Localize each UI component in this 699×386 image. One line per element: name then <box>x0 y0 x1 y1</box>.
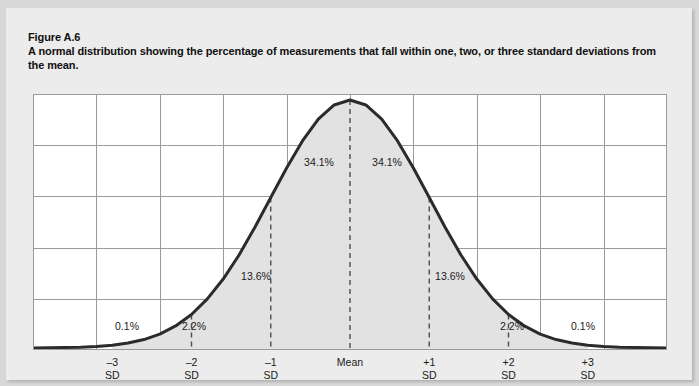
x-tick-value: –1 <box>265 356 277 368</box>
x-tick-value: –3 <box>106 356 118 368</box>
percentage-label: 2.2% <box>500 320 524 332</box>
x-tick-unit: SD <box>501 369 516 382</box>
percentage-label: 34.1% <box>372 156 402 168</box>
x-tick-unit: SD <box>184 369 199 382</box>
percentage-label: 0.1% <box>115 320 139 332</box>
normal-distribution-chart <box>33 94 667 350</box>
x-tick-3: –3SD <box>105 356 120 382</box>
percentage-label: 13.6% <box>241 270 271 282</box>
x-tick-2: –2SD <box>184 356 199 382</box>
x-tick-+1: +1SD <box>422 356 437 382</box>
x-tick-value: +1 <box>423 356 435 368</box>
x-tick-+3: +3SD <box>580 356 595 382</box>
x-tick-unit: SD <box>580 369 595 382</box>
percentage-label: 13.6% <box>435 270 465 282</box>
x-tick-mean: Mean <box>337 356 363 369</box>
chart-plot-area <box>33 94 667 350</box>
x-tick-value: +3 <box>582 356 594 368</box>
x-tick-+2: +2SD <box>501 356 516 382</box>
percentage-label: 2.2% <box>182 320 206 332</box>
x-tick-value: –2 <box>186 356 198 368</box>
x-tick-unit: SD <box>263 369 278 382</box>
x-tick-unit: SD <box>105 369 120 382</box>
figure-number: Figure A.6 <box>28 30 668 44</box>
figure-caption: Figure A.6 A normal distribution showing… <box>28 30 668 72</box>
percentage-label: 0.1% <box>571 320 595 332</box>
x-tick-value: +2 <box>503 356 515 368</box>
x-tick-unit: SD <box>422 369 437 382</box>
figure-panel: Figure A.6 A normal distribution showing… <box>6 8 692 380</box>
x-tick-value: Mean <box>337 356 363 368</box>
figure-caption-text: A normal distribution showing the percen… <box>28 44 668 72</box>
percentage-label: 34.1% <box>304 156 334 168</box>
x-tick-1: –1SD <box>263 356 278 382</box>
